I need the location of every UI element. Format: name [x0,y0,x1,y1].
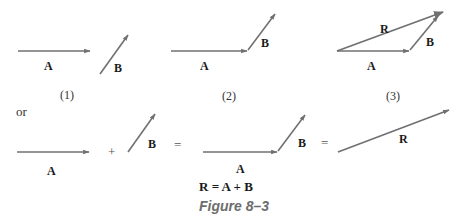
panel-1: A B (1) [18,35,128,102]
panel-2: A B (2) [171,14,275,103]
plus-sign: + [108,144,115,159]
vector-b-label: B [426,35,434,49]
connector-word: or [16,104,28,119]
term-b-label: B [148,137,156,151]
sum-b-label: B [298,136,306,150]
vector-b-label: B [114,61,122,75]
equals-sign-1: = [174,137,181,152]
panel-1-sublabel: (1) [60,88,74,102]
panel-3: A B R (3) [337,12,443,103]
vector-r-label: R [380,22,389,36]
bottom-row-equation: A + B = A B = R [17,110,449,178]
result-r-label: R [399,132,408,146]
result-r-arrow [338,110,449,152]
sum-a-label: A [236,162,245,176]
figure-caption: Figure 8–3 [199,198,269,214]
vector-a-label: A [44,59,53,73]
equation-text: R = A + B [199,179,253,194]
vector-b-label: B [261,36,269,50]
equals-sign-2: = [321,135,328,150]
term-a-label: A [47,164,56,178]
vector-a-label: A [200,59,209,73]
vector-addition-figure: A B (1) A B (2) A B R (3) or A + B = A B… [0,0,459,219]
panel-2-sublabel: (2) [222,89,236,103]
vector-a-label: A [367,59,376,73]
panel-3-sublabel: (3) [386,89,400,103]
